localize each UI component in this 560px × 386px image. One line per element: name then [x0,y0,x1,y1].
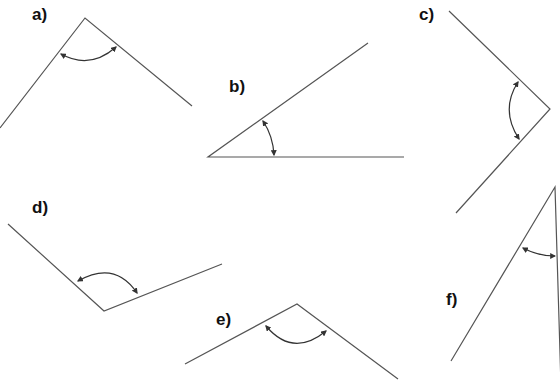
angle-d [8,224,222,311]
label-a: a) [32,5,47,25]
angle-f [451,187,560,386]
label-e: e) [216,310,231,330]
label-b: b) [229,77,245,97]
label-f: f) [446,290,457,310]
angle-c [449,11,550,213]
angle-a [0,18,192,128]
label-c: c) [419,5,434,25]
angle-b [208,43,404,157]
angles-diagram [0,0,560,386]
label-d: d) [32,198,48,218]
